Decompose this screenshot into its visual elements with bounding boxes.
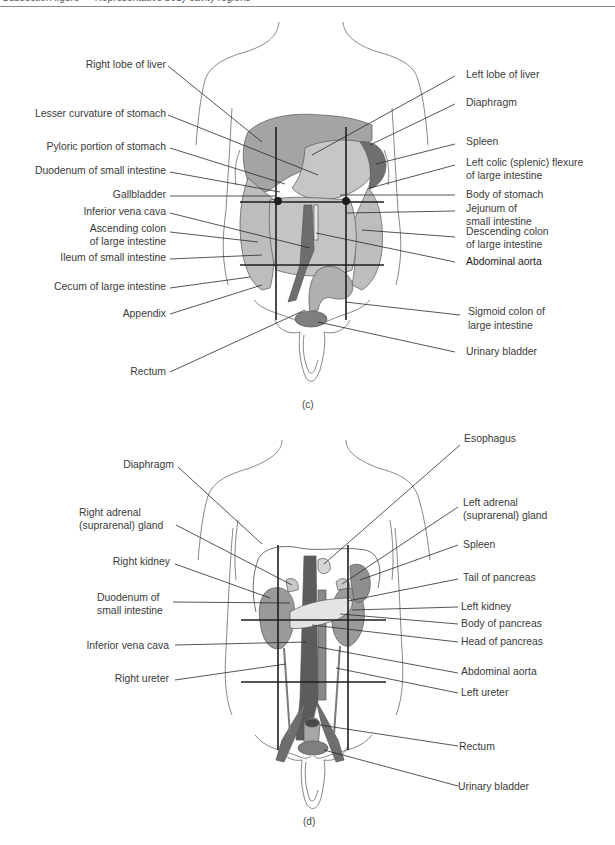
- label-right-adrenal-line2: (suprarenal) gland: [79, 520, 163, 533]
- label-jejunum: Jejunum of small intestine: [466, 203, 532, 228]
- label-abdominal-aorta: Abdominal aorta: [466, 256, 542, 269]
- label-d-duodenum-line2: small intestine: [97, 605, 163, 618]
- label-left-adrenal-line1: Left adrenal: [463, 497, 547, 510]
- label-d-duodenum-line1: Duodenum of: [97, 592, 163, 605]
- label-ascending-colon-line2: of large intestine: [90, 236, 166, 249]
- label-d-inferior-vena-cava: Inferior vena cava: [86, 640, 169, 653]
- label-right-kidney: Right kidney: [113, 556, 170, 569]
- label-right-adrenal-line1: Right adrenal: [79, 507, 163, 520]
- label-gallbladder: Gallbladder: [113, 189, 166, 202]
- label-inferior-vena-cava: Inferior vena cava: [83, 206, 166, 219]
- label-left-colic-flexure: Left colic (splenic) flexure of large in…: [466, 157, 583, 182]
- label-lesser-curvature-of-stomach: Lesser curvature of stomach: [35, 108, 166, 121]
- label-d-duodenum: Duodenum of small intestine: [97, 592, 163, 617]
- label-d-abdominal-aorta: Abdominal aorta: [461, 666, 537, 679]
- label-spleen: Spleen: [466, 136, 498, 149]
- label-descending-colon: Descending colon of large intestine: [466, 226, 549, 251]
- label-left-kidney: Left kidney: [461, 601, 511, 614]
- label-rectum: Rectum: [130, 366, 166, 379]
- label-left-colic-flexure-line2: of large intestine: [466, 170, 583, 183]
- label-d-urinary-bladder: Urinary bladder: [458, 781, 529, 794]
- label-jejunum-line1: Jejunum of: [466, 203, 532, 216]
- label-urinary-bladder: Urinary bladder: [466, 346, 537, 359]
- label-left-lobe-of-liver: Left lobe of liver: [466, 69, 539, 82]
- label-left-ureter: Left ureter: [461, 687, 508, 700]
- label-left-colic-flexure-line1: Left colic (splenic) flexure: [466, 157, 583, 170]
- label-ascending-colon-line1: Ascending colon: [90, 223, 166, 236]
- figure-c-caption: (c): [302, 399, 314, 410]
- label-body-of-pancreas: Body of pancreas: [461, 618, 542, 631]
- label-pyloric-portion-of-stomach: Pyloric portion of stomach: [46, 141, 166, 154]
- label-sigmoid-colon: Sigmoid colon of large intestine: [468, 305, 545, 333]
- label-descending-colon-line2: of large intestine: [466, 239, 549, 252]
- figure-d-organs: [259, 556, 370, 762]
- label-duodenum-of-small-intestine: Duodenum of small intestine: [35, 165, 166, 178]
- label-descending-colon-line1: Descending colon: [466, 226, 549, 239]
- label-body-of-stomach: Body of stomach: [466, 189, 543, 202]
- anatomy-diagram: [0, 0, 615, 845]
- label-right-adrenal-gland: Right adrenal (suprarenal) gland: [79, 507, 163, 532]
- label-left-adrenal-line2: (suprarenal) gland: [463, 510, 547, 523]
- label-cecum-of-large-intestine: Cecum of large intestine: [54, 281, 166, 294]
- label-sigmoid-colon-line2: large intestine: [468, 319, 545, 333]
- figure-d-caption: (d): [303, 816, 315, 827]
- label-d-spleen: Spleen: [463, 539, 495, 552]
- label-d-rectum: Rectum: [459, 741, 495, 754]
- figure-c-organs: [240, 114, 386, 327]
- label-ileum-of-small-intestine: Ileum of small intestine: [60, 252, 166, 265]
- label-left-adrenal-gland: Left adrenal (suprarenal) gland: [463, 497, 547, 522]
- label-tail-of-pancreas: Tail of pancreas: [463, 572, 536, 585]
- label-d-diaphragm: Diaphragm: [123, 459, 174, 472]
- label-right-lobe-of-liver: Right lobe of liver: [86, 59, 166, 72]
- label-head-of-pancreas: Head of pancreas: [461, 636, 543, 649]
- label-esophagus: Esophagus: [464, 433, 516, 446]
- label-right-ureter: Right ureter: [115, 673, 169, 686]
- label-diaphragm: Diaphragm: [466, 97, 517, 110]
- label-ascending-colon: Ascending colon of large intestine: [90, 223, 166, 248]
- label-appendix: Appendix: [123, 308, 166, 321]
- label-sigmoid-colon-line1: Sigmoid colon of: [468, 305, 545, 319]
